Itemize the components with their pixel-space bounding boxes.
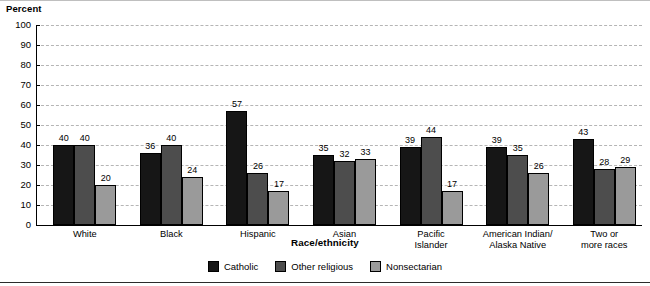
bar xyxy=(161,145,182,225)
y-axis-tick-label: 90 xyxy=(0,40,31,50)
bar xyxy=(74,145,95,225)
chart-legend: CatholicOther religiousNonsectarian xyxy=(0,261,650,272)
bar-group: 432829 xyxy=(573,25,636,225)
legend-item[interactable]: Other religious xyxy=(275,261,353,272)
y-axis-tick-label: 60 xyxy=(0,100,31,110)
bar-value-label: 33 xyxy=(351,148,381,157)
bar xyxy=(182,177,203,225)
y-axis-tick-mark xyxy=(36,165,40,166)
y-axis-tick-mark xyxy=(36,205,40,206)
y-axis-tick-mark xyxy=(36,25,40,26)
bar xyxy=(442,191,463,225)
y-axis-tick-mark xyxy=(36,65,40,66)
bar-value-label: 17 xyxy=(264,180,294,189)
y-axis-tick-mark xyxy=(36,225,40,226)
y-axis-tick-mark xyxy=(36,125,40,126)
y-axis-tick-label: 70 xyxy=(0,80,31,90)
legend-label: Other religious xyxy=(291,261,353,272)
bar-value-label: 29 xyxy=(610,156,640,165)
x-axis-line xyxy=(36,225,642,226)
y-axis-tick-mark xyxy=(36,105,40,106)
bar xyxy=(140,153,161,225)
bar-value-label: 40 xyxy=(70,134,100,143)
bar-value-label: 57 xyxy=(222,100,252,109)
bar xyxy=(313,155,334,225)
bar xyxy=(615,167,636,225)
y-axis-title: Percent xyxy=(6,3,42,14)
bar xyxy=(486,147,507,225)
bar-group: 393526 xyxy=(486,25,549,225)
legend-item[interactable]: Nonsectarian xyxy=(370,261,442,272)
legend-swatch xyxy=(275,261,286,272)
y-axis-tick-mark xyxy=(36,185,40,186)
legend-swatch xyxy=(208,261,219,272)
bar xyxy=(53,145,74,225)
y-axis-tick-mark xyxy=(36,85,40,86)
legend-item[interactable]: Catholic xyxy=(208,261,258,272)
bar xyxy=(95,185,116,225)
bar-value-label: 24 xyxy=(177,166,207,175)
bar-group: 353233 xyxy=(313,25,376,225)
y-axis-tick-label: 100 xyxy=(0,20,31,30)
bar xyxy=(594,169,615,225)
y-axis-tick-mark xyxy=(36,45,40,46)
bar xyxy=(268,191,289,225)
y-axis-tick-label: 0 xyxy=(0,220,31,230)
bar-value-label: 26 xyxy=(524,162,554,171)
bar-value-label: 20 xyxy=(91,174,121,183)
y-axis-tick-label: 50 xyxy=(0,120,31,130)
bar-value-label: 44 xyxy=(416,126,446,135)
bar-value-label: 26 xyxy=(243,162,273,171)
legend-label: Catholic xyxy=(224,261,258,272)
bottom-rule xyxy=(0,282,650,283)
y-axis-tick-label: 10 xyxy=(0,200,31,210)
chart-figure: Percent 40402036402457261735323339441739… xyxy=(0,0,650,286)
bar-group: 394417 xyxy=(400,25,463,225)
bar-value-label: 35 xyxy=(503,144,533,153)
bar-value-label: 40 xyxy=(156,134,186,143)
y-axis-tick-label: 20 xyxy=(0,180,31,190)
bar-group: 364024 xyxy=(140,25,203,225)
bar xyxy=(528,173,549,225)
legend-swatch xyxy=(370,261,381,272)
bar-value-label: 17 xyxy=(437,180,467,189)
bar xyxy=(334,161,355,225)
y-axis-tick-label: 30 xyxy=(0,160,31,170)
plot-area: 4040203640245726173532333944173935264328… xyxy=(36,25,642,225)
bar-group: 572617 xyxy=(226,25,289,225)
bar-group: 404020 xyxy=(53,25,116,225)
bar-value-label: 43 xyxy=(568,128,598,137)
legend-label: Nonsectarian xyxy=(386,261,442,272)
y-axis-tick-mark xyxy=(36,145,40,146)
y-axis-tick-label: 80 xyxy=(0,60,31,70)
bar xyxy=(400,147,421,225)
bar xyxy=(573,139,594,225)
y-axis-tick-label: 40 xyxy=(0,140,31,150)
bar xyxy=(355,159,376,225)
x-axis-title: Race/ethnicity xyxy=(0,237,650,248)
